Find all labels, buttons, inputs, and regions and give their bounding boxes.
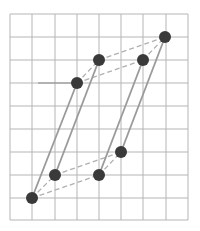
point-D	[115, 146, 127, 158]
dashed-edge-AC	[32, 175, 99, 198]
dashed-edge-EG	[77, 60, 143, 83]
dashed-edge-BD	[55, 152, 121, 175]
point-H	[159, 31, 171, 43]
point-A	[26, 192, 38, 204]
parallelepiped-diagram	[0, 0, 200, 231]
point-G	[137, 54, 149, 66]
dashed-edge-FH	[99, 37, 165, 60]
point-F	[93, 54, 105, 66]
point-E	[71, 77, 83, 89]
point-B	[49, 169, 61, 181]
point-C	[93, 169, 105, 181]
